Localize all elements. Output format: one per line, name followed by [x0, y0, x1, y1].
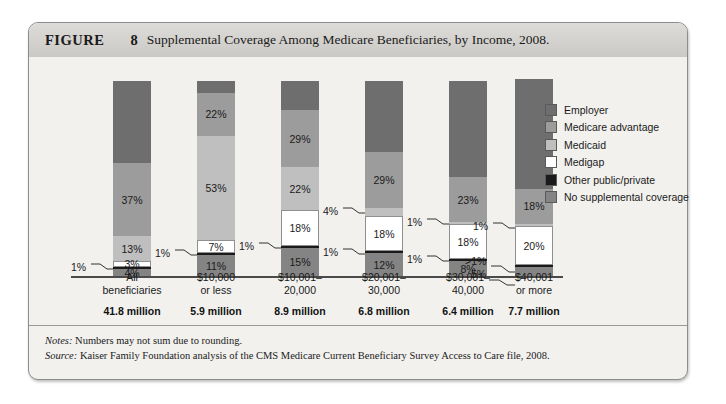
segment-value-label: 37%	[113, 194, 151, 206]
category-count: 6.8 million	[341, 305, 427, 317]
legend-swatch-icon	[545, 121, 557, 133]
category-label-line2: 20,000	[257, 284, 343, 297]
legend-item-medicaid[interactable]: Medicaid	[545, 136, 725, 154]
legend-swatch-icon	[545, 104, 557, 116]
category-count: 8.9 million	[257, 305, 343, 317]
leader-line	[319, 229, 379, 269]
category-count: 5.9 million	[173, 305, 259, 317]
segment-employer	[449, 81, 487, 177]
leader-line	[235, 223, 295, 263]
legend-item-other-public-private[interactable]: Other public/private	[545, 171, 725, 189]
leader-line	[469, 250, 529, 290]
leader-line	[151, 230, 211, 270]
figure-title: Supplemental Coverage Among Medicare Ben…	[147, 32, 550, 48]
notes-line: Notes: Numbers may not sum due to roundi…	[45, 333, 687, 348]
category-income-10001-20000: $10,001–20,0008.9 million	[257, 271, 343, 317]
category-label-line1: $10,001–	[257, 271, 343, 284]
legend-item-medicare-advantage[interactable]: Medicare advantage	[545, 119, 725, 137]
segment-employer	[197, 81, 235, 93]
legend-item-medigap[interactable]: Medigap	[545, 154, 725, 172]
legend-item-employer[interactable]: Employer	[545, 101, 725, 119]
chart-plot-area: 37%13%3%4%22%53%7%11%29%22%18%15%29%18%1…	[29, 57, 687, 325]
notes-key: Notes:	[45, 335, 72, 346]
legend-label: No supplemental coverage	[564, 191, 689, 203]
source-line: Source: Kaiser Family Foundation analysi…	[45, 348, 687, 363]
category-income-20001-30000: $20,001–30,0006.8 million	[341, 271, 427, 317]
chart-legend: EmployerMedicare advantageMedicaidMediga…	[545, 101, 725, 206]
category-label-line2: beneficiaries	[89, 284, 175, 297]
segment-value-label: 22%	[197, 108, 235, 120]
leader-line	[319, 188, 379, 228]
legend-label: Other public/private	[564, 174, 655, 186]
segment-employer	[281, 81, 319, 110]
figure-header: FIGURE 8 Supplemental Coverage Among Med…	[29, 23, 687, 58]
legend-swatch-icon	[545, 191, 557, 203]
category-label-line2: 30,000	[341, 284, 427, 297]
legend-swatch-icon	[545, 139, 557, 151]
legend-item-no-supplemental-coverage[interactable]: No supplemental coverage	[545, 189, 725, 207]
segment-medicare-advantage: 37%	[113, 163, 151, 236]
legend-label: Medigap	[564, 156, 604, 168]
segment-employer	[365, 81, 403, 152]
figure-card: FIGURE 8 Supplemental Coverage Among Med…	[28, 22, 688, 380]
segment-medicare-advantage: 29%	[281, 110, 319, 167]
legend-label: Employer	[564, 104, 608, 116]
source-key: Source:	[45, 350, 77, 361]
segment-value-label: 29%	[281, 133, 319, 145]
category-count: 41.8 million	[89, 305, 175, 317]
segment-value-label: 29%	[365, 174, 403, 186]
legend-label: Medicaid	[564, 139, 606, 151]
category-income-10000-or-less: $10,000or less5.9 million	[173, 271, 259, 317]
source-text: Kaiser Family Foundation analysis of the…	[77, 350, 549, 361]
legend-label: Medicare advantage	[564, 121, 659, 133]
figure-label: FIGURE	[45, 32, 104, 49]
segment-employer	[113, 81, 151, 163]
figure-footer: Notes: Numbers may not sum due to roundi…	[29, 325, 687, 379]
legend-swatch-icon	[545, 174, 557, 186]
segment-value-label: 22%	[281, 183, 319, 195]
leader-line	[403, 199, 463, 239]
leader-line	[403, 236, 463, 276]
notes-text: Numbers may not sum due to rounding.	[72, 335, 242, 346]
category-count: 7.7 million	[491, 305, 577, 317]
legend-swatch-icon	[545, 156, 557, 168]
segment-medicare-advantage: 22%	[197, 93, 235, 136]
category-label-line2: or less	[173, 284, 259, 297]
segment-medicaid: 22%	[281, 167, 319, 210]
category-label-line1: $10,000	[173, 271, 259, 284]
segment-medicaid: 53%	[197, 136, 235, 240]
leader-line	[469, 203, 529, 243]
figure-number: 8	[130, 32, 137, 49]
leader-line	[67, 244, 127, 284]
segment-value-label: 53%	[197, 182, 235, 194]
